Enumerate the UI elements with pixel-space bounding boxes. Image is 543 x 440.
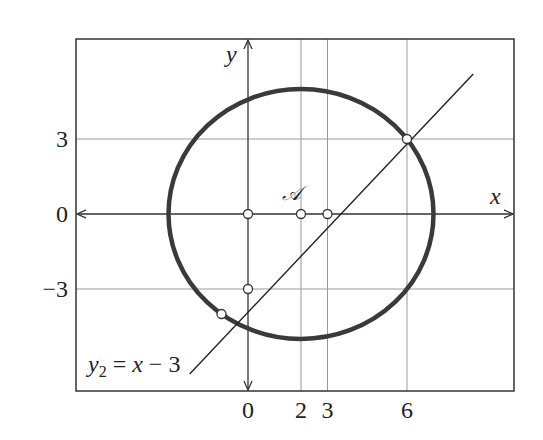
x-tick-label: 6 [401, 397, 413, 423]
marked-points [217, 135, 412, 319]
point-intersection-upper [403, 135, 412, 144]
y-tick-labels: 30−3 [42, 126, 68, 302]
y-tick-label: 0 [56, 201, 68, 227]
eq-equals: = [107, 351, 133, 377]
x-tick-labels: 0236 [242, 397, 413, 423]
line-y2 [190, 74, 474, 374]
x-tick-label: 3 [322, 397, 334, 423]
x-tick-label: 0 [242, 397, 254, 423]
x-axis-label: x [489, 183, 501, 209]
y-tick-label: −3 [42, 276, 68, 302]
eq-subscript: 2 [99, 363, 107, 380]
y-tick-label: 3 [56, 126, 68, 152]
eq-rest: − 3 [143, 351, 181, 377]
eq-x: x [131, 351, 143, 377]
point-circle-center [297, 210, 306, 219]
point-intersection-lower [217, 310, 226, 319]
y-axis-label: y [224, 41, 237, 67]
x-tick-label: 2 [295, 397, 307, 423]
line-equation-label: y2 = x − 3 [86, 351, 180, 380]
coordinate-diagram: y x 𝒜 0236 30−3 y2 = x − 3 [0, 0, 543, 440]
eq-y: y [86, 351, 99, 377]
point-x-intercept [323, 210, 332, 219]
point-origin [244, 210, 253, 219]
circle-center-label: 𝒜 [282, 181, 307, 205]
point-y-intercept [244, 285, 253, 294]
